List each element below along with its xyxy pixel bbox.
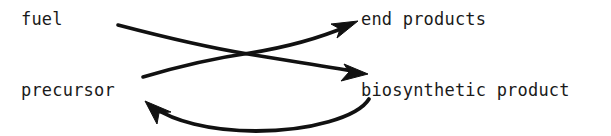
arrowhead-biosynthetic-product	[341, 64, 368, 81]
node-label-end-products: end products	[361, 11, 486, 28]
metabolic-flow-diagram: fuel end products precursor biosynthetic…	[0, 0, 611, 136]
arrow-precursor-to-end-products	[143, 21, 358, 77]
node-label-fuel: fuel	[21, 11, 63, 28]
arrow-layer	[0, 0, 611, 136]
arrowhead-precursor	[145, 101, 171, 124]
arrow-biosynthetic-product-to-precursor	[145, 99, 369, 131]
node-label-precursor: precursor	[21, 82, 115, 99]
node-label-biosynthetic-product: biosynthetic product	[361, 82, 570, 99]
